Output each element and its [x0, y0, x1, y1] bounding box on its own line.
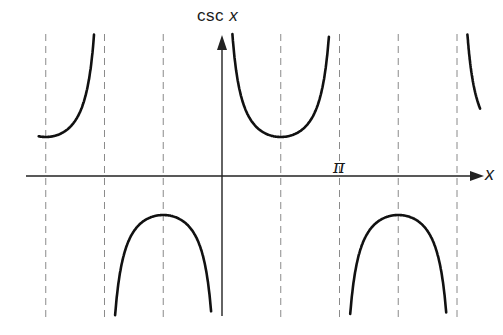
pi-tick-label: π [333, 156, 345, 177]
x-axis-arrow-icon [470, 171, 484, 181]
csc-branch [39, 35, 94, 137]
y-axis-label: csc x [197, 6, 238, 26]
x-axis-label: x [485, 164, 494, 185]
csc-branch [467, 35, 480, 109]
csc-graph [0, 0, 503, 335]
y-axis-arrow-icon [217, 35, 227, 50]
